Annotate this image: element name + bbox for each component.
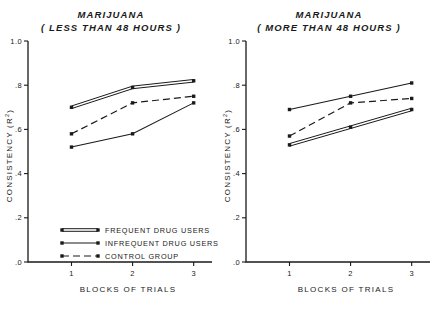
legend-item: INFREQUENT DRUG USERS [60, 239, 218, 248]
data-point-marker [192, 95, 195, 98]
data-point-marker [70, 132, 73, 135]
data-point-marker [349, 101, 352, 104]
legend-marker [60, 241, 63, 244]
data-point-marker [410, 97, 413, 100]
legend: FREQUENT DRUG USERSINFREQUENT DRUG USERS… [60, 226, 218, 261]
series-double-solid [288, 108, 414, 147]
legend-item: CONTROL GROUP [60, 252, 179, 261]
y-tick-label: .4 [233, 169, 240, 178]
y-tick-label: .2 [15, 213, 22, 222]
legend-marker [96, 228, 99, 231]
y-tick-label: .0 [15, 258, 22, 267]
chart-panel-right: MARIJUANA ( MORE THAN 48 HOURS ) 1.0.8.6… [218, 0, 440, 316]
y-axis-title: CONSISTENCY (R2) [222, 109, 232, 202]
data-point-marker [288, 108, 291, 111]
y-tick-label: .0 [233, 258, 240, 267]
data-point-marker [70, 145, 73, 148]
panel-left-plot: 1.0.8.6.4.2.0123BLOCKS OF TRIALSCONSISTE… [0, 0, 222, 316]
legend-marker [96, 254, 99, 257]
series-dashed [288, 97, 414, 138]
data-point-marker [349, 95, 352, 98]
legend-marker [60, 254, 63, 257]
data-point-marker [131, 101, 134, 104]
y-tick-label: 1.0 [10, 37, 22, 46]
data-point-marker [349, 125, 352, 128]
data-point-marker [288, 134, 291, 137]
data-point-marker [131, 86, 134, 89]
x-tick-label: 2 [130, 269, 135, 278]
y-tick-label: .2 [233, 213, 240, 222]
data-point-marker [70, 106, 73, 109]
legend-label: CONTROL GROUP [105, 252, 179, 261]
data-point-marker [192, 101, 195, 104]
data-point-marker [131, 132, 134, 135]
y-tick-label: .6 [233, 125, 240, 134]
y-tick-label: .4 [15, 169, 22, 178]
x-axis-title: BLOCKS OF TRIALS [298, 285, 395, 294]
legend-label: FREQUENT DRUG USERS [105, 226, 210, 235]
legend-marker [96, 241, 99, 244]
y-tick-label: 1.0 [228, 37, 240, 46]
data-point-marker [410, 81, 413, 84]
y-tick-label: .8 [15, 81, 22, 90]
series-single-solid [70, 101, 196, 149]
legend-marker [60, 228, 63, 231]
y-tick-label: .8 [233, 81, 240, 90]
data-point-marker [192, 79, 195, 82]
y-axis-title: CONSISTENCY (R2) [4, 109, 14, 202]
x-tick-label: 3 [191, 269, 196, 278]
panel-right-plot: 1.0.8.6.4.2.0123BLOCKS OF TRIALSCONSISTE… [218, 0, 440, 316]
x-tick-label: 3 [409, 269, 414, 278]
data-point-marker [288, 143, 291, 146]
figure-canvas: MARIJUANA ( LESS THAN 48 HOURS ) 1.0.8.6… [0, 0, 440, 316]
x-tick-label: 1 [69, 269, 74, 278]
legend-item: FREQUENT DRUG USERS [60, 226, 210, 235]
x-tick-label: 2 [348, 269, 353, 278]
series-single-solid [288, 81, 414, 111]
chart-panel-left: MARIJUANA ( LESS THAN 48 HOURS ) 1.0.8.6… [0, 0, 222, 316]
y-tick-label: .6 [15, 125, 22, 134]
x-axis-title: BLOCKS OF TRIALS [80, 285, 177, 294]
data-point-marker [410, 108, 413, 111]
x-tick-label: 1 [287, 269, 292, 278]
legend-label: INFREQUENT DRUG USERS [105, 239, 219, 248]
